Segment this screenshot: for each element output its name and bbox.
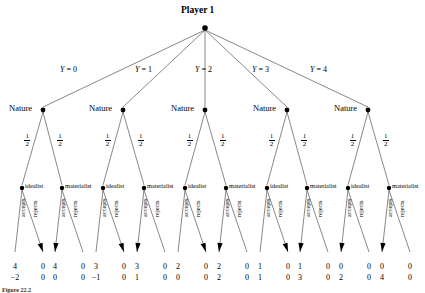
prob-denominator: 2 — [381, 141, 391, 148]
decision-node-6 — [265, 186, 269, 190]
arrowhead-decision-0-rejects — [38, 243, 43, 252]
action-label-8-rejects: rejects — [357, 200, 364, 216]
root-branch-label-3: Y = 3 — [252, 65, 269, 74]
prob-denominator: 2 — [136, 141, 146, 148]
arrowhead-decision-3-accepts — [135, 243, 140, 252]
probability-label-4-0: 12 — [348, 133, 358, 148]
root-branch-label-2: Y = 2 — [195, 65, 212, 74]
prob-denominator: 2 — [267, 141, 277, 148]
payoff-player2-0: −2 — [8, 273, 22, 282]
payoff-player2-11: 0 — [240, 273, 254, 282]
payoff-player1-2: 4 — [48, 262, 62, 271]
figure-caption: Figure 22.2 — [2, 287, 31, 293]
payoff-player2-3: 0 — [76, 273, 90, 282]
edge-nature-1-to-decision-2 — [103, 112, 123, 185]
action-label-5-rejects: rejects — [235, 200, 242, 216]
prob-denominator: 2 — [55, 141, 65, 148]
arrowhead-decision-7-accepts — [298, 243, 303, 252]
arrowhead-decision-1-accepts — [53, 243, 58, 252]
type-label-9-materialist: materialist — [392, 182, 419, 189]
probability-label-1-0: 12 — [103, 133, 113, 148]
arrowhead-decision-8-accepts — [339, 243, 344, 252]
decision-node-9 — [387, 186, 391, 190]
payoff-player2-19: 0 — [403, 273, 417, 282]
payoff-player1-16: 0 — [334, 262, 348, 271]
payoff-player2-6: 1 — [130, 273, 144, 282]
prob-denominator: 2 — [348, 141, 358, 148]
edge-nature-4-to-decision-8 — [348, 112, 368, 185]
decision-node-1 — [60, 186, 64, 190]
arrowhead-decision-6-rejects — [283, 243, 288, 252]
nature-node-1 — [121, 108, 126, 113]
payoff-player1-8: 2 — [171, 262, 185, 271]
payoff-player2-8: 0 — [171, 273, 185, 282]
arrowhead-decision-4-rejects — [201, 243, 206, 252]
type-label-2-idealist: idealist — [106, 182, 124, 189]
action-label-4-rejects: rejects — [194, 200, 201, 216]
payoff-player2-12: 1 — [253, 273, 267, 282]
decision-node-8 — [346, 186, 350, 190]
action-label-6-rejects: rejects — [276, 200, 283, 216]
payoff-player2-9: 0 — [199, 273, 213, 282]
prob-numerator: 1 — [55, 133, 65, 140]
edge-nature-3-to-decision-7 — [287, 112, 307, 185]
prob-numerator: 1 — [103, 133, 113, 140]
payoff-player1-6: 3 — [130, 262, 144, 271]
probability-label-2-0: 12 — [185, 133, 195, 148]
action-label-0-rejects: rejects — [31, 200, 38, 216]
prob-numerator: 1 — [218, 133, 228, 140]
prob-denominator: 2 — [103, 141, 113, 148]
type-label-5-materialist: materialist — [229, 182, 256, 189]
decision-node-2 — [101, 186, 105, 190]
edge-nature-2-to-decision-5 — [205, 112, 226, 185]
type-label-3-materialist: materialist — [147, 182, 174, 189]
payoff-player1-18: 0 — [375, 262, 389, 271]
type-label-0-idealist: idealist — [25, 182, 43, 189]
action-label-6-accepts: accepts — [264, 198, 271, 217]
edge-root-to-nature-4 — [205, 30, 368, 107]
payoff-player1-12: 1 — [253, 262, 267, 271]
decision-node-4 — [183, 186, 187, 190]
prob-numerator: 1 — [22, 133, 32, 140]
prob-denominator: 2 — [22, 141, 32, 148]
payoff-player2-4: −1 — [89, 273, 103, 282]
payoff-player2-5: 0 — [117, 273, 131, 282]
payoff-player1-17: 0 — [362, 262, 376, 271]
payoff-player1-11: 0 — [240, 262, 254, 271]
action-label-1-accepts: accepts — [59, 198, 66, 217]
nature-node-4 — [366, 108, 371, 113]
payoff-player2-7: 0 — [158, 273, 172, 282]
action-label-4-accepts: accepts — [182, 198, 189, 217]
action-label-7-accepts: accepts — [304, 198, 311, 217]
type-label-7-materialist: materialist — [310, 182, 337, 189]
edge-nature-2-to-decision-4 — [185, 112, 205, 185]
root-node-player1 — [202, 25, 208, 31]
action-label-3-accepts: accepts — [141, 198, 148, 217]
action-label-7-rejects: rejects — [316, 200, 323, 216]
probability-label-2-1: 12 — [218, 133, 228, 148]
edge-root-to-nature-3 — [205, 30, 287, 107]
action-label-9-rejects: rejects — [398, 200, 405, 216]
prob-numerator: 1 — [185, 133, 195, 140]
edge-nature-0-to-decision-1 — [43, 112, 62, 185]
prob-numerator: 1 — [136, 133, 146, 140]
payoff-player1-9: 0 — [199, 262, 213, 271]
prob-denominator: 2 — [218, 141, 228, 148]
payoff-player1-19: 0 — [403, 262, 417, 271]
nature-label-0: Nature — [9, 103, 32, 113]
edge-nature-0-to-decision-0 — [22, 112, 43, 185]
game-tree-diagram: Player 1Y = 0Y = 1Y = 2Y = 3Y = 4NatureN… — [0, 0, 425, 293]
probability-label-1-1: 12 — [136, 133, 146, 148]
nature-label-1: Nature — [89, 103, 112, 113]
prob-denominator: 2 — [299, 141, 309, 148]
payoff-player2-18: 4 — [375, 273, 389, 282]
payoff-player2-17: 0 — [362, 273, 376, 282]
type-label-8-idealist: idealist — [351, 182, 369, 189]
arrowhead-decision-5-accepts — [217, 243, 222, 252]
type-label-4-idealist: idealist — [188, 182, 206, 189]
payoff-player2-16: 2 — [334, 273, 348, 282]
arrowhead-decision-9-accepts — [380, 243, 385, 252]
probability-label-0-0: 12 — [22, 133, 32, 148]
type-label-1-materialist: materialist — [65, 182, 92, 189]
action-label-9-accepts: accepts — [386, 198, 393, 217]
